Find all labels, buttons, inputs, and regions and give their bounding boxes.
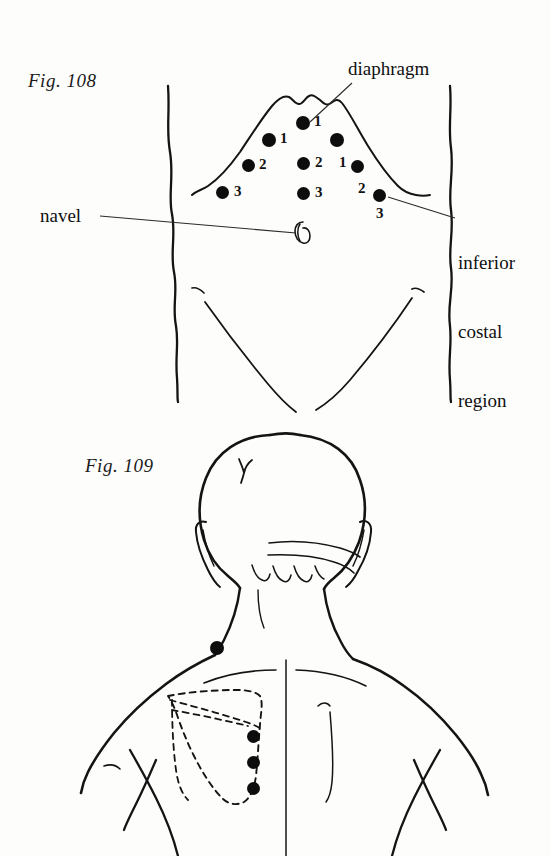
fig109-point-scapula-3 [247,782,260,795]
fig109-point-neck [210,641,224,655]
fig-108-label: Fig. 108 [28,70,96,92]
annotation-inferior-costal-region: inferior costal region [458,205,515,458]
fig109-point-scapula-1 [247,730,260,743]
fig108-point-right-3-label: 3 [376,205,384,222]
fig108-point-mid-3 [297,187,310,200]
fig108-point-left-3-label: 3 [234,183,242,200]
fig109-point-scapula-2 [247,756,260,769]
fig108-point-mid-2 [297,157,310,170]
fig108-point-top [296,116,310,130]
annotation-navel: navel [40,205,81,227]
fig108-point-right-2-label: 2 [358,180,366,197]
fig108-point-left-2-label: 2 [259,156,267,173]
annotation-diaphragm: diaphragm [348,58,429,80]
annotation-line-costal: costal [458,320,515,343]
fig-109-label: Fig. 109 [85,455,153,477]
fig108-point-right-1 [351,160,364,173]
annotation-line-region: region [458,389,515,412]
fig108-point-right-1-label: 1 [339,154,347,171]
fig108-point-left-1-label: 1 [280,130,288,147]
fig108-point-mid-2-label: 2 [315,154,323,171]
fig109-figure-outline [81,434,488,856]
fig108-leader-lines [100,83,455,233]
fig108-point-mid-3-label: 3 [315,184,323,201]
fig108-point-top-label: 1 [314,113,322,130]
fig108-torso-outline [168,86,452,412]
fig108-point-right-2 [373,189,386,202]
annotation-line-inferior: inferior [458,251,515,274]
fig108-point-left-2 [242,159,255,172]
fig108-point-right-upper [330,133,344,147]
fig108-point-left-3 [216,186,229,199]
figure-page: Fig. 108 diaphragm navel inferior costal… [0,0,551,856]
fig108-point-left-1 [262,133,276,147]
